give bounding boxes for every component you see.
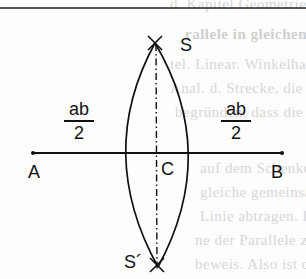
fraction-denominator: 2 [231, 122, 241, 142]
point-b-dot [280, 151, 284, 155]
fraction-numerator: ab [69, 100, 89, 120]
label-a: A [28, 163, 40, 181]
point-a-dot [31, 151, 35, 155]
label-b: B [271, 163, 283, 181]
label-s-prime: S´ [124, 253, 142, 271]
perpendicular-bisector [156, 44, 157, 270]
construction-svg [0, 0, 306, 279]
fraction-numerator: ab [226, 100, 246, 120]
fraction-denominator: 2 [74, 122, 84, 142]
arc-left [126, 43, 158, 267]
label-s: S [180, 36, 192, 54]
left-radius-fraction: ab 2 [62, 100, 96, 142]
label-c: C [161, 160, 174, 178]
diagram-canvas: d. Kapitel Geometrie rallele in gleichem… [0, 0, 306, 279]
arc-right [155, 43, 188, 267]
right-radius-fraction: ab 2 [219, 100, 253, 142]
